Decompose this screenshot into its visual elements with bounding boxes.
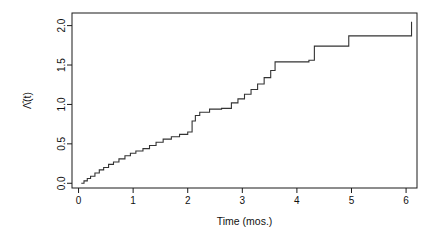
cumulative-hazard-step-plot: 0123456 0.00.51.01.52.0 Time (mos.) Λ̂(t… bbox=[0, 0, 438, 235]
y-tick-label: 0.5 bbox=[56, 136, 67, 150]
y-axis-title: Λ̂(t) bbox=[21, 92, 33, 109]
x-tick-label: 2 bbox=[185, 195, 191, 206]
x-tick-label: 0 bbox=[76, 195, 82, 206]
chart-figure: 0123456 0.00.51.01.52.0 Time (mos.) Λ̂(t… bbox=[0, 0, 438, 235]
y-tick-label: 2.0 bbox=[56, 18, 67, 32]
y-tick-label: 1.5 bbox=[56, 58, 67, 72]
x-tick-label: 4 bbox=[294, 195, 300, 206]
x-tick-label: 6 bbox=[403, 195, 409, 206]
x-tick-label: 5 bbox=[349, 195, 355, 206]
y-tick-label: 1.0 bbox=[56, 97, 67, 111]
chart-background bbox=[0, 0, 438, 235]
x-tick-label: 3 bbox=[240, 195, 246, 206]
x-axis-title: Time (mos.) bbox=[217, 215, 273, 227]
y-tick-label: 0.0 bbox=[56, 176, 67, 190]
x-tick-label: 1 bbox=[130, 195, 136, 206]
